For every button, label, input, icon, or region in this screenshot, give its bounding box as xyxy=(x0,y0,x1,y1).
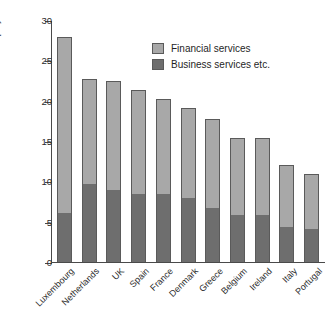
bar-group[interactable] xyxy=(181,108,196,263)
bar-group[interactable] xyxy=(82,79,97,263)
bar-segment-business-services[interactable] xyxy=(131,194,146,263)
y-tick-label: 10 xyxy=(26,176,52,187)
chart-legend: Financial servicesBusiness services etc. xyxy=(152,43,270,75)
x-axis-label-belgium: Belgium xyxy=(219,266,249,296)
y-axis-label: % of total employment xyxy=(2,0,12,90)
bar-group[interactable] xyxy=(255,138,270,263)
bar-segment-financial-services[interactable] xyxy=(205,119,220,209)
bar-segment-financial-services[interactable] xyxy=(57,37,72,213)
bar-segment-financial-services[interactable] xyxy=(304,174,319,229)
bar-segment-financial-services[interactable] xyxy=(131,90,146,194)
bar-segment-business-services[interactable] xyxy=(106,190,121,263)
legend-label: Business services etc. xyxy=(171,59,270,70)
bar-segment-business-services[interactable] xyxy=(156,194,171,263)
bar-group[interactable] xyxy=(106,81,121,263)
bar-group[interactable] xyxy=(131,90,146,263)
legend-item[interactable]: Business services etc. xyxy=(152,59,270,70)
legend-swatch-icon xyxy=(152,43,164,54)
x-axis-label-ireland: Ireland xyxy=(248,266,275,293)
bar-segment-financial-services[interactable] xyxy=(181,108,196,198)
bar-group[interactable] xyxy=(57,37,72,263)
legend-item[interactable]: Financial services xyxy=(152,43,270,54)
bar-segment-business-services[interactable] xyxy=(82,184,97,263)
bar-segment-financial-services[interactable] xyxy=(156,99,171,194)
bar-group[interactable] xyxy=(230,138,245,263)
bar-group[interactable] xyxy=(279,165,294,263)
y-tick-label: 25 xyxy=(26,55,52,66)
bar-segment-financial-services[interactable] xyxy=(106,81,121,190)
y-axis-label-text: % of total employment xyxy=(0,0,1,90)
y-tick-label: 0 xyxy=(26,257,52,268)
bar-segment-financial-services[interactable] xyxy=(230,138,245,215)
x-axis-label-italy: Italy xyxy=(280,266,299,285)
bar-segment-business-services[interactable] xyxy=(230,215,245,263)
bar-segment-financial-services[interactable] xyxy=(255,138,270,215)
x-axis-line xyxy=(51,262,325,263)
bar-segment-financial-services[interactable] xyxy=(82,79,97,184)
x-axis-label-spain: Spain xyxy=(127,266,150,289)
bar-segment-business-services[interactable] xyxy=(255,215,270,263)
bar-segment-business-services[interactable] xyxy=(181,198,196,263)
legend-label: Financial services xyxy=(171,43,250,54)
bar-segment-business-services[interactable] xyxy=(279,227,294,263)
bar-segment-business-services[interactable] xyxy=(57,213,72,263)
bar-segment-business-services[interactable] xyxy=(205,208,220,263)
legend-swatch-icon xyxy=(152,59,164,70)
bar-segment-financial-services[interactable] xyxy=(279,165,294,227)
y-tick-label: 5 xyxy=(26,217,52,228)
y-tick-label: 15 xyxy=(26,136,52,147)
bar-group[interactable] xyxy=(205,119,220,263)
stacked-bar-chart: % of total employment 051015202530 Luxem… xyxy=(0,0,330,325)
y-tick-label: 20 xyxy=(26,96,52,107)
x-axis-label-uk: UK xyxy=(110,266,126,282)
bar-group[interactable] xyxy=(304,174,319,263)
bar-segment-business-services[interactable] xyxy=(304,229,319,263)
y-tick-label: 30 xyxy=(26,15,52,26)
bar-group[interactable] xyxy=(156,99,171,263)
